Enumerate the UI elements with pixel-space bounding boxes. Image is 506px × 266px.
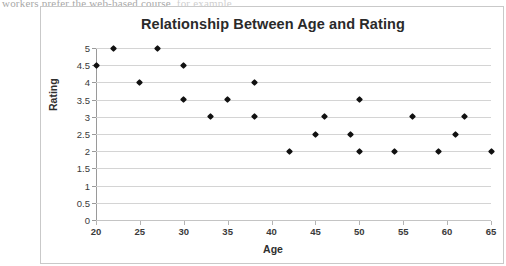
data-point [154,44,161,51]
y-tick-label: 0 [50,215,90,226]
y-tick-label: 4.5 [50,60,90,71]
data-point [435,148,442,155]
data-point [347,130,354,137]
x-tick-mark [96,221,97,225]
x-tick-mark [140,221,141,225]
x-tick-mark [403,221,404,225]
data-point [92,62,99,69]
x-tick-mark [491,221,492,225]
data-point [250,79,257,86]
x-tick-mark [228,221,229,225]
y-tick-label: 0.5 [50,197,90,208]
x-tick-mark [447,221,448,225]
data-point [321,113,328,120]
chart-title: Relationship Between Age and Rating [41,16,504,32]
y-tick-label: 1 [50,180,90,191]
y-tick-label: 3 [50,111,90,122]
data-point [312,130,319,137]
data-point [356,148,363,155]
x-tick-mark [184,221,185,225]
data-point [461,113,468,120]
data-point [136,79,143,86]
x-tick-label: 60 [427,226,467,237]
data-point [180,62,187,69]
x-tick-mark [315,221,316,225]
x-tick-label: 65 [471,226,504,237]
data-point [452,130,459,137]
y-tick-label: 3.5 [50,94,90,105]
x-tick-label: 25 [120,226,160,237]
y-tick-label: 1.5 [50,163,90,174]
gridline [96,220,491,221]
data-point [286,148,293,155]
x-tick-label: 30 [164,226,204,237]
data-point [408,113,415,120]
plot-area [96,48,491,220]
y-tick-label: 2.5 [50,129,90,140]
x-tick-label: 35 [208,226,248,237]
data-point [224,96,231,103]
data-point [250,113,257,120]
y-tick-label: 4 [50,77,90,88]
data-point [207,113,214,120]
chart-container: Relationship Between Age and Rating Rati… [40,6,504,264]
x-tick-label: 55 [383,226,423,237]
x-tick-mark [272,221,273,225]
x-tick-label: 20 [76,226,116,237]
x-axis-title: Age [41,243,504,255]
y-tick-label: 5 [50,43,90,54]
data-point [356,96,363,103]
x-tick-mark [359,221,360,225]
data-point [110,44,117,51]
x-tick-label: 45 [295,226,335,237]
x-tick-label: 50 [339,226,379,237]
data-point [391,148,398,155]
x-tick-label: 40 [252,226,292,237]
data-point [487,148,494,155]
y-tick-label: 2 [50,146,90,157]
data-point [180,96,187,103]
